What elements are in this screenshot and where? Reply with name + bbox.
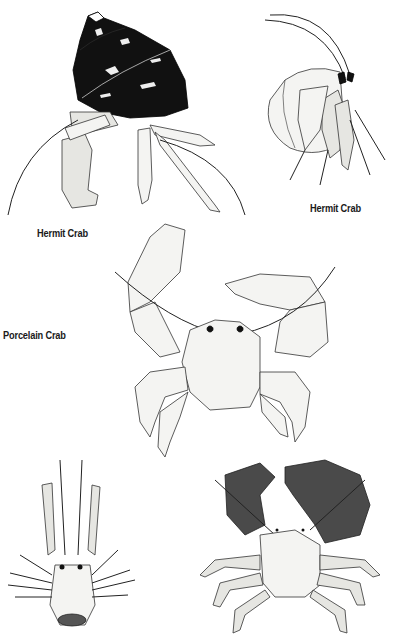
porcelain-crab-dark-claws-illustration <box>185 455 395 642</box>
hermit-crab-dark-shell-illustration <box>0 0 260 220</box>
hermit-crab-pale-shell-illustration <box>250 0 395 195</box>
hermit-crab-caption-left: Hermit Crab <box>37 227 88 239</box>
hermit-crab-caption-right: Hermit Crab <box>310 202 361 214</box>
porcelain-crab-illustration <box>110 222 340 462</box>
squat-lobster-illustration <box>0 455 170 642</box>
porcelain-crab-caption: Porcelain Crab <box>3 329 66 341</box>
